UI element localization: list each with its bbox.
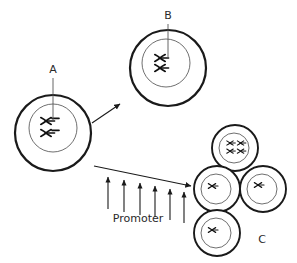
cell-c-bottom-nucleus [201, 218, 231, 248]
cell-c-cluster: C [194, 125, 286, 256]
cell-c-left [194, 166, 240, 212]
cell-b: B [130, 9, 206, 106]
cell-c-right [240, 166, 286, 212]
label-c: C [258, 233, 266, 246]
label-a: A [49, 63, 57, 76]
cell-division-diagram: A B Promoter [0, 0, 297, 263]
cell-c-top [212, 125, 258, 171]
cell-c-left-nucleus [201, 174, 231, 204]
label-promoter: Promoter [113, 212, 164, 225]
label-b: B [164, 9, 172, 22]
diagram-canvas: A B Promoter [0, 0, 297, 263]
cell-b-nucleus [142, 39, 190, 87]
cell-c-right-nucleus [247, 174, 277, 204]
arrow-a-to-b [92, 104, 120, 123]
cell-a: A [15, 63, 91, 171]
cell-c-top-nucleus [219, 133, 249, 163]
cell-c-bottom [194, 210, 240, 256]
